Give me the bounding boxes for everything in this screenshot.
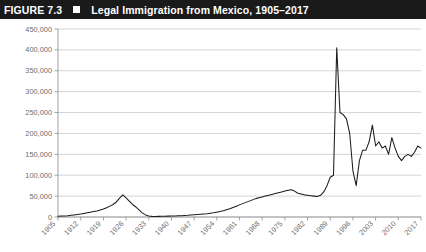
x-axis-tick-label: 1968 xyxy=(244,219,262,237)
square-bullet-icon xyxy=(73,6,80,13)
y-axis-tick-label: 200,000 xyxy=(25,129,52,138)
x-axis-tick-label: 1947 xyxy=(176,219,194,237)
y-axis-tick-label: 250,000 xyxy=(25,108,52,117)
chart-area: 450,000400,000350,000300,000250,000200,0… xyxy=(0,19,426,252)
gridlines xyxy=(58,29,421,217)
x-axis-tick-label: 1996 xyxy=(334,219,352,237)
y-axis-tick-label: 450,000 xyxy=(25,25,52,34)
x-axis-tick-label: 1961 xyxy=(221,219,239,237)
figure-number: FIGURE 7.3 xyxy=(4,4,62,16)
x-axis-tick-labels: 1905191219191926193319401947195419611968… xyxy=(39,219,420,237)
figure-title-band: FIGURE 7.3 Legal Immigration from Mexico… xyxy=(0,0,426,19)
x-axis-tick-label: 1926 xyxy=(107,219,125,237)
figure-container: FIGURE 7.3 Legal Immigration from Mexico… xyxy=(0,0,426,252)
page-title: Legal Immigration from Mexico, 1905–2017 xyxy=(91,4,309,16)
x-axis-tick-label: 1989 xyxy=(312,219,330,237)
x-axis-tick-label: 1933 xyxy=(130,219,148,237)
x-axis-tick-label: 2017 xyxy=(402,219,420,237)
x-axis-tick-label: 1940 xyxy=(153,219,171,237)
y-axis-tick-label: 100,000 xyxy=(25,171,52,180)
x-axis-tick-label: 1905 xyxy=(39,219,57,237)
x-axis-tick-label: 1954 xyxy=(198,219,216,237)
x-axis-tick-label: 1919 xyxy=(85,219,103,237)
x-axis-tick-label: 1982 xyxy=(289,219,307,237)
y-axis-tick-labels: 450,000400,000350,000300,000250,000200,0… xyxy=(25,25,52,222)
data-series-line xyxy=(58,48,421,217)
x-axis-tick-label: 1975 xyxy=(266,219,284,237)
y-tick-marks xyxy=(55,29,59,217)
line-chart: 450,000400,000350,000300,000250,000200,0… xyxy=(0,19,426,252)
y-axis-tick-label: 300,000 xyxy=(25,87,52,96)
x-axis-tick-label: 2003 xyxy=(357,219,375,237)
y-axis-tick-label: 150,000 xyxy=(25,150,52,159)
x-axis-tick-label: 2010 xyxy=(380,219,398,237)
x-axis-tick-label: 1912 xyxy=(62,219,80,237)
y-axis-tick-label: 50,000 xyxy=(29,192,52,201)
y-axis-tick-label: 400,000 xyxy=(25,45,52,54)
y-axis-tick-label: 350,000 xyxy=(25,66,52,75)
